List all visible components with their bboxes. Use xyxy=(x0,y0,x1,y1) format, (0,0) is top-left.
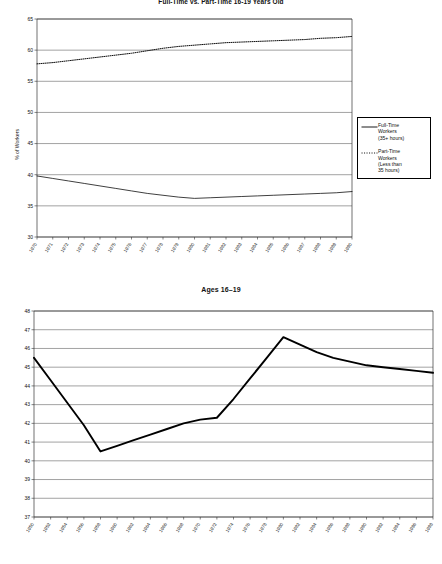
svg-text:1976: 1976 xyxy=(241,522,251,534)
svg-text:1974: 1974 xyxy=(225,522,235,534)
svg-text:1956: 1956 xyxy=(75,522,85,534)
svg-text:1952: 1952 xyxy=(42,522,52,534)
svg-text:1974: 1974 xyxy=(91,242,101,254)
svg-text:1973: 1973 xyxy=(75,242,85,254)
svg-text:1983: 1983 xyxy=(233,242,243,254)
bottom-chart-plot: 3738394041424344454647481950195219541956… xyxy=(0,286,442,564)
svg-text:1994: 1994 xyxy=(391,522,401,534)
svg-text:1990: 1990 xyxy=(358,522,368,534)
top-chart-legend: Full-Time Workers (35+ hours) Part-Time … xyxy=(357,117,431,179)
svg-text:1985: 1985 xyxy=(264,242,274,254)
svg-text:37: 37 xyxy=(24,514,30,520)
svg-text:1964: 1964 xyxy=(142,522,152,534)
svg-text:1980: 1980 xyxy=(275,522,285,534)
svg-text:30: 30 xyxy=(27,234,33,240)
svg-text:44: 44 xyxy=(24,383,30,389)
svg-text:1987: 1987 xyxy=(296,242,306,254)
svg-text:1950: 1950 xyxy=(25,522,35,534)
top-chart-y-axis-label: % of Workers xyxy=(14,129,20,160)
solid-line-icon xyxy=(361,122,378,129)
svg-text:38: 38 xyxy=(24,495,30,501)
svg-text:1976: 1976 xyxy=(123,242,133,254)
svg-text:1962: 1962 xyxy=(125,522,135,534)
svg-text:1960: 1960 xyxy=(108,522,118,534)
svg-text:1981: 1981 xyxy=(201,242,211,254)
legend-label-full-time: Full-Time Workers (35+ hours) xyxy=(378,122,404,141)
legend-item-full-time: Full-Time Workers (35+ hours) xyxy=(361,122,427,141)
svg-text:43: 43 xyxy=(24,401,30,407)
svg-text:45: 45 xyxy=(24,364,30,370)
svg-text:39: 39 xyxy=(24,476,30,482)
svg-text:1972: 1972 xyxy=(208,522,218,534)
svg-text:40: 40 xyxy=(27,172,33,178)
svg-text:42: 42 xyxy=(24,420,30,426)
svg-text:60: 60 xyxy=(27,47,33,53)
svg-text:46: 46 xyxy=(24,345,30,351)
svg-text:1992: 1992 xyxy=(374,522,384,534)
svg-text:41: 41 xyxy=(24,439,30,445)
svg-text:1970: 1970 xyxy=(28,242,38,254)
svg-text:1972: 1972 xyxy=(60,242,70,254)
svg-text:35: 35 xyxy=(27,203,33,209)
svg-text:48: 48 xyxy=(24,308,30,314)
svg-text:1971: 1971 xyxy=(44,242,54,254)
svg-text:1954: 1954 xyxy=(58,522,68,534)
svg-text:1978: 1978 xyxy=(258,522,268,534)
top-chart-title: Full-Time vs. Part-Time 16-19 Years Old xyxy=(0,0,442,5)
svg-text:1998: 1998 xyxy=(424,522,434,534)
svg-text:1982: 1982 xyxy=(291,522,301,534)
svg-text:1989: 1989 xyxy=(327,242,337,254)
svg-text:1988: 1988 xyxy=(312,242,322,254)
svg-text:47: 47 xyxy=(24,327,30,333)
svg-text:1996: 1996 xyxy=(408,522,418,534)
svg-text:1958: 1958 xyxy=(92,522,102,534)
svg-text:65: 65 xyxy=(27,16,33,22)
svg-text:1984: 1984 xyxy=(308,522,318,534)
svg-text:1966: 1966 xyxy=(158,522,168,534)
figure-page: Full-Time vs. Part-Time 16-19 Years Old … xyxy=(0,0,442,564)
svg-text:1979: 1979 xyxy=(170,242,180,254)
svg-text:1975: 1975 xyxy=(107,242,117,254)
svg-text:1986: 1986 xyxy=(324,522,334,534)
svg-text:1970: 1970 xyxy=(191,522,201,534)
svg-text:1986: 1986 xyxy=(280,242,290,254)
dotted-line-icon xyxy=(361,148,378,155)
legend-label-part-time: Part-Time Workers (Less than 35 hours) xyxy=(378,148,402,174)
svg-text:50: 50 xyxy=(27,109,33,115)
svg-text:1990: 1990 xyxy=(343,242,353,254)
legend-item-part-time: Part-Time Workers (Less than 35 hours) xyxy=(361,148,427,174)
svg-text:40: 40 xyxy=(24,458,30,464)
svg-text:1968: 1968 xyxy=(175,522,185,534)
svg-text:1988: 1988 xyxy=(341,522,351,534)
svg-text:1980: 1980 xyxy=(186,242,196,254)
svg-text:55: 55 xyxy=(27,78,33,84)
bottom-chart-title: Ages 16–19 xyxy=(0,286,442,293)
svg-text:1984: 1984 xyxy=(249,242,259,254)
top-chart-figure: Full-Time vs. Part-Time 16-19 Years Old … xyxy=(0,0,442,285)
bottom-chart-figure: Ages 16–19 37383940414243444546474819501… xyxy=(0,286,442,564)
svg-text:1977: 1977 xyxy=(138,242,148,254)
svg-text:1978: 1978 xyxy=(154,242,164,254)
svg-text:1982: 1982 xyxy=(217,242,227,254)
svg-text:45: 45 xyxy=(27,140,33,146)
